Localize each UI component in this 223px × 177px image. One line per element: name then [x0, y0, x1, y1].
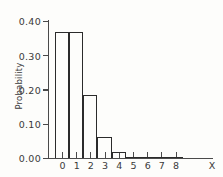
y-axis-label: Probability	[14, 41, 24, 131]
x-tick-label-8: 8	[168, 160, 184, 171]
y-axis-spine	[48, 20, 49, 159]
x-axis-label: X	[205, 160, 219, 171]
bar-1	[69, 32, 83, 157]
bar-8	[168, 157, 182, 158]
y-tick-label-4: 0.40	[1, 16, 41, 27]
y-tick-0	[43, 158, 48, 159]
y-tick-label-0: 0.00	[1, 153, 41, 164]
histogram-figure: 0.00 0.10 0.20 0.30 0.40 0 1 2 3 4 5 6 7…	[0, 0, 223, 177]
bar-6	[140, 157, 154, 158]
plot-area: 0.00 0.10 0.20 0.30 0.40 0 1 2 3 4 5 6 7…	[0, 0, 223, 177]
bar-0	[55, 32, 69, 157]
x-axis-spine	[48, 158, 213, 159]
bar-7	[154, 157, 168, 158]
bar-2	[83, 95, 97, 158]
y-tick-2	[43, 89, 48, 90]
y-tick-1	[43, 124, 48, 125]
y-tick-3	[43, 55, 48, 56]
bar-4	[112, 152, 126, 157]
y-tick-4	[43, 21, 48, 22]
bar-3	[97, 137, 111, 158]
bar-5	[126, 157, 140, 158]
